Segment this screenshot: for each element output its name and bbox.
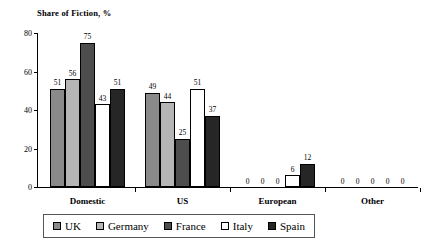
bar-germany-us[interactable]: 44 <box>160 102 175 187</box>
bar-germany-other[interactable]: 0 <box>350 186 365 187</box>
bar-rect <box>160 102 175 187</box>
legend-label: France <box>176 220 206 232</box>
legend-swatch-icon <box>164 222 172 230</box>
bar-rect <box>300 164 315 187</box>
bar-value-label: 49 <box>149 83 157 91</box>
bar-france-european[interactable]: 0 <box>270 186 285 187</box>
y-axis-tick-label: 60 <box>24 67 32 76</box>
bar-value-label: 75 <box>84 33 92 41</box>
bar-rect <box>285 175 300 187</box>
legend-item-uk[interactable]: UK <box>53 220 81 232</box>
bar-rect <box>190 89 205 187</box>
bar-uk-european[interactable]: 0 <box>240 186 255 187</box>
legend-swatch-icon <box>53 222 61 230</box>
bar-italy-us[interactable]: 51 <box>190 89 205 187</box>
bar-uk-us[interactable]: 49 <box>145 93 160 187</box>
bar-value-label: 43 <box>99 95 107 103</box>
legend-item-italy[interactable]: Italy <box>221 220 253 232</box>
x-axis-tick-mark <box>135 188 136 192</box>
bar-france-us[interactable]: 25 <box>175 139 190 187</box>
legend-swatch-icon <box>268 222 276 230</box>
y-axis-tick-mark <box>34 33 38 34</box>
y-axis-tick-mark <box>34 187 38 188</box>
category-label-other: Other <box>361 196 384 206</box>
bar-group: 00000 <box>335 33 410 187</box>
bar-value-label: 12 <box>304 154 312 162</box>
bar-value-label: 0 <box>371 178 375 186</box>
chart-title: Share of Fiction, % <box>37 8 111 18</box>
legend-label: UK <box>65 220 81 232</box>
legend-label: Germany <box>108 220 149 232</box>
bar-germany-domestic[interactable]: 56 <box>65 79 80 187</box>
bar-value-label: 44 <box>164 93 172 101</box>
bar-group: 4944255137 <box>145 33 220 187</box>
legend-label: Spain <box>280 220 305 232</box>
bar-rect <box>110 89 125 187</box>
bar-germany-european[interactable]: 0 <box>255 186 270 187</box>
bar-value-label: 0 <box>261 178 265 186</box>
bar-chart: Share of Fiction, % 020406080 5156754351… <box>0 0 434 250</box>
legend-swatch-icon <box>96 222 104 230</box>
bar-italy-european[interactable]: 6 <box>285 175 300 187</box>
bar-rect <box>95 104 110 187</box>
x-axis-tick-mark <box>230 188 231 192</box>
y-axis-tick-label: 0 <box>28 183 32 192</box>
bar-value-label: 0 <box>246 178 250 186</box>
legend-item-spain[interactable]: Spain <box>268 220 305 232</box>
bar-spain-us[interactable]: 37 <box>205 116 220 187</box>
bar-rect <box>145 93 160 187</box>
bar-group: 000612 <box>240 33 315 187</box>
y-axis-tick-mark <box>34 149 38 150</box>
chart-legend: UKGermanyFranceItalySpain <box>43 214 315 238</box>
bar-rect <box>80 43 95 187</box>
bar-rect <box>175 139 190 187</box>
y-axis-tick-mark <box>34 72 38 73</box>
bar-value-label: 0 <box>386 178 390 186</box>
bar-spain-other[interactable]: 0 <box>395 186 410 187</box>
bar-france-domestic[interactable]: 75 <box>80 43 95 187</box>
bar-uk-domestic[interactable]: 51 <box>50 89 65 187</box>
bar-value-label: 51 <box>114 79 122 87</box>
legend-swatch-icon <box>221 222 229 230</box>
bar-value-label: 37 <box>209 106 217 114</box>
y-axis-tick-label: 40 <box>24 106 32 115</box>
bar-italy-other[interactable]: 0 <box>380 186 395 187</box>
bar-value-label: 56 <box>69 70 77 78</box>
x-axis-tick-mark <box>420 188 421 192</box>
bar-rect <box>65 79 80 187</box>
category-label-european: European <box>259 196 297 206</box>
bar-group: 5156754351 <box>50 33 125 187</box>
bar-value-label: 0 <box>341 178 345 186</box>
y-axis-tick-label: 80 <box>24 29 32 38</box>
bar-value-label: 6 <box>291 166 295 174</box>
bar-uk-other[interactable]: 0 <box>335 186 350 187</box>
legend-label: Italy <box>233 220 253 232</box>
x-axis-tick-mark <box>325 188 326 192</box>
bar-italy-domestic[interactable]: 43 <box>95 104 110 187</box>
legend-item-france[interactable]: France <box>164 220 206 232</box>
bar-france-other[interactable]: 0 <box>365 186 380 187</box>
bar-rect <box>205 116 220 187</box>
bar-rect <box>50 89 65 187</box>
legend-item-germany[interactable]: Germany <box>96 220 149 232</box>
y-axis-tick-mark <box>34 110 38 111</box>
category-label-domestic: Domestic <box>70 196 106 206</box>
category-label-us: US <box>177 196 189 206</box>
bar-value-label: 25 <box>179 129 187 137</box>
bar-value-label: 51 <box>194 79 202 87</box>
plot-area: 020406080 515675435149442551370006120000… <box>37 33 418 188</box>
x-axis-line <box>37 187 418 188</box>
bar-value-label: 0 <box>401 178 405 186</box>
y-axis-tick-label: 20 <box>24 144 32 153</box>
bar-spain-european[interactable]: 12 <box>300 164 315 187</box>
bar-value-label: 0 <box>276 178 280 186</box>
bar-value-label: 51 <box>54 79 62 87</box>
bar-spain-domestic[interactable]: 51 <box>110 89 125 187</box>
bar-value-label: 0 <box>356 178 360 186</box>
